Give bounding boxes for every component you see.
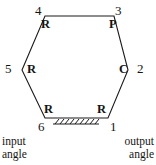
joint-type-1: R xyxy=(97,103,106,116)
vertex-number-1: 1 xyxy=(110,120,117,133)
vertex-number-2: 2 xyxy=(137,62,144,75)
output-angle-caption: output angle xyxy=(125,135,154,160)
joint-type-4: R xyxy=(41,18,50,31)
hexagon-linkage-outline xyxy=(22,16,128,118)
input-angle-caption-line1: input xyxy=(2,135,27,148)
joint-type-5: R xyxy=(27,63,36,76)
joint-type-2: C xyxy=(119,63,128,76)
joint-type-3: P xyxy=(109,18,117,31)
input-angle-caption: input angle xyxy=(2,135,27,160)
ground-hatching xyxy=(53,119,99,124)
vertex-number-5: 5 xyxy=(5,62,12,75)
output-angle-caption-line2: angle xyxy=(125,148,154,161)
input-angle-caption-line2: angle xyxy=(2,148,27,161)
output-angle-caption-line1: output xyxy=(125,135,154,148)
joint-type-6: R xyxy=(44,103,53,116)
vertex-number-6: 6 xyxy=(38,120,45,133)
vertex-number-3: 3 xyxy=(115,4,122,17)
vertex-number-4: 4 xyxy=(35,4,42,17)
kinematic-chain-figure: 4 3 5 2 6 1 R P R C R R input angle outp… xyxy=(0,0,156,165)
